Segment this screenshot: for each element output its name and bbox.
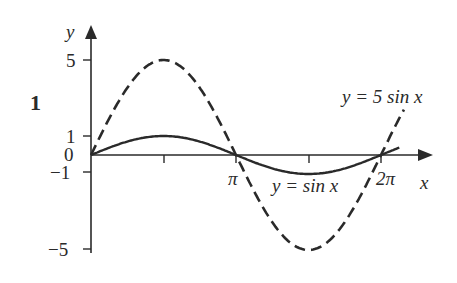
x-ticks <box>164 155 381 163</box>
figure-number: 1 <box>30 90 41 115</box>
x-tick-label-pi: π <box>228 168 238 189</box>
y-tick-label-5: 5 <box>66 50 76 71</box>
y-tick-label-minus-5: −5 <box>48 239 68 260</box>
x-axis-label: x <box>419 172 429 193</box>
y-axis-label: y <box>64 21 75 42</box>
curve-label-sin-x: y = sin x <box>270 175 339 196</box>
sine-graph-figure: 1 y x 5 1 0 −1 −5 π 2π y = 5 sin x y = s… <box>0 0 457 283</box>
y-axis-arrow-icon <box>85 25 97 39</box>
x-axis-arrow-icon <box>418 149 433 161</box>
x-tick-label-2pi: 2π <box>376 168 396 189</box>
y-ticks <box>83 60 91 249</box>
curve-label-5-sin-x: y = 5 sin x <box>340 86 423 107</box>
y-tick-label-minus-1: −1 <box>50 162 70 183</box>
